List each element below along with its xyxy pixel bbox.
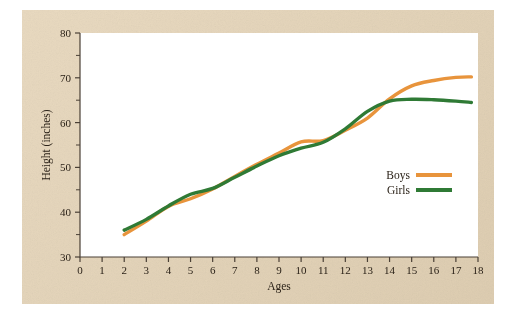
x-tick-label: 8 xyxy=(254,264,260,276)
x-tick-label: 1 xyxy=(99,264,105,276)
series-line-girls xyxy=(124,99,471,230)
y-axis-title: Height (inches) xyxy=(40,109,53,180)
y-tick-label: 50 xyxy=(60,161,72,173)
x-tick-label: 17 xyxy=(450,264,462,276)
legend-label-boys: Boys xyxy=(386,169,410,182)
x-tick-label: 14 xyxy=(384,264,396,276)
x-tick-label: 3 xyxy=(144,264,150,276)
x-tick-label: 7 xyxy=(232,264,238,276)
y-tick-label: 70 xyxy=(60,72,72,84)
data-series-group xyxy=(124,77,471,235)
x-tick-label: 16 xyxy=(428,264,440,276)
y-tick-label: 80 xyxy=(60,27,72,39)
x-tick-label: 11 xyxy=(318,264,329,276)
y-tick-label: 60 xyxy=(60,117,72,129)
x-tick-label: 12 xyxy=(340,264,351,276)
x-tick-label: 18 xyxy=(473,264,485,276)
x-tick-label: 9 xyxy=(276,264,282,276)
chart-vector-layer: 3040506070800123456789101112131415161718… xyxy=(0,0,516,325)
x-tick-label: 15 xyxy=(406,264,418,276)
chart-legend: BoysGirls xyxy=(386,169,452,196)
x-tick-label: 10 xyxy=(296,264,308,276)
x-tick-label: 4 xyxy=(166,264,172,276)
x-tick-label: 6 xyxy=(210,264,216,276)
legend-label-girls: Girls xyxy=(387,184,411,196)
x-axis-title: Ages xyxy=(267,280,291,293)
y-tick-label: 30 xyxy=(60,251,72,263)
x-tick-label: 5 xyxy=(188,264,194,276)
tick-labels-group: 3040506070800123456789101112131415161718 xyxy=(60,27,484,276)
x-tick-label: 0 xyxy=(77,264,83,276)
x-tick-label: 2 xyxy=(121,264,127,276)
chart-figure: 3040506070800123456789101112131415161718… xyxy=(0,0,516,325)
x-tick-label: 13 xyxy=(362,264,374,276)
y-tick-label: 40 xyxy=(60,206,72,218)
